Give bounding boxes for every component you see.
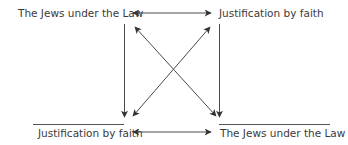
- diagram: The Jews under the Law Justification by …: [0, 0, 348, 145]
- connector-arrows: [0, 0, 348, 145]
- diagonal-arrow-tr-bl: [133, 27, 210, 116]
- label-bottom-right: The Jews under the Law: [220, 127, 345, 139]
- label-top-right: Justification by faith: [219, 7, 324, 19]
- label-bottom-left: Justification by faith: [38, 127, 143, 139]
- label-top-left: The Jews under the Law: [18, 7, 143, 19]
- diagonal-arrow-tl-br: [135, 27, 216, 116]
